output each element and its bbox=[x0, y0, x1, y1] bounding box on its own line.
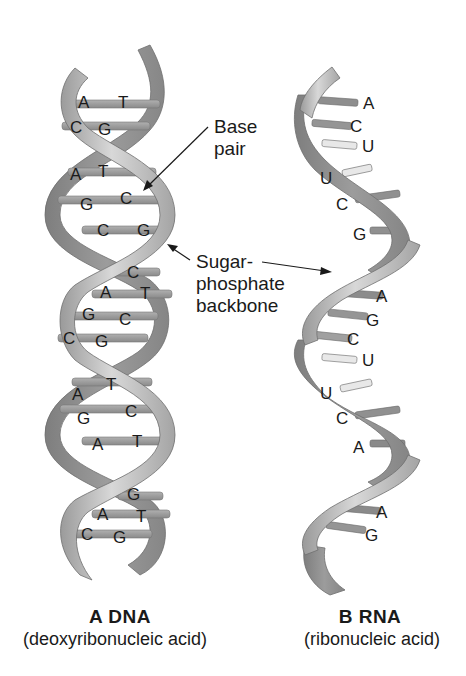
dna-base: A bbox=[92, 435, 104, 454]
dna-base: C bbox=[81, 525, 93, 544]
rna-base: U bbox=[362, 351, 374, 370]
dna-base: T bbox=[140, 284, 150, 303]
dna-base: C bbox=[127, 263, 139, 282]
dna-base: T bbox=[132, 432, 142, 451]
rna-base: G bbox=[366, 311, 379, 330]
dna-base: G bbox=[98, 120, 111, 139]
dna-base: G bbox=[95, 332, 108, 351]
rna-base: A bbox=[353, 438, 365, 457]
leader-line-right bbox=[262, 262, 325, 271]
dna-base: C bbox=[125, 402, 137, 421]
rna-base: C bbox=[336, 195, 348, 214]
leader-line bbox=[148, 127, 208, 186]
dna-base: G bbox=[127, 485, 140, 504]
rna-front-ribbon-low bbox=[302, 455, 420, 555]
dna-base: T bbox=[106, 375, 116, 394]
rna-base: U bbox=[362, 137, 374, 156]
rna-base: U bbox=[320, 169, 332, 188]
dna-base: A bbox=[72, 385, 84, 404]
nucleic-acid-diagram: A T C G A T G C C G C A T G C C G A T G … bbox=[0, 0, 466, 676]
callout-backbone: Sugar- phosphate backbone bbox=[167, 244, 332, 316]
dna-base: C bbox=[97, 221, 109, 240]
dna-base: G bbox=[80, 195, 93, 214]
dna-base: T bbox=[98, 162, 108, 181]
rna-caption-subtitle: (ribonucleic acid) bbox=[272, 629, 466, 650]
rna-caption-title: B RNA bbox=[290, 606, 450, 628]
arrowhead-right-icon bbox=[320, 267, 332, 275]
dna-base: C bbox=[120, 189, 132, 208]
dna-base: T bbox=[136, 507, 146, 526]
dna-base: A bbox=[100, 283, 112, 302]
callout-backbone-line3: backbone bbox=[196, 295, 278, 316]
rna-base: G bbox=[365, 526, 378, 545]
dna-base: C bbox=[119, 310, 131, 329]
rna-base: U bbox=[320, 384, 332, 403]
rna-base: A bbox=[363, 94, 375, 113]
callout-base-pair-line1: Base bbox=[214, 116, 257, 137]
dna-base: G bbox=[77, 409, 90, 428]
rna-base: C bbox=[347, 330, 359, 349]
callout-backbone-line1: Sugar- bbox=[196, 251, 253, 272]
rna-base: A bbox=[376, 503, 388, 522]
rna-base: C bbox=[336, 409, 348, 428]
callout-base-pair-line2: pair bbox=[214, 138, 246, 159]
dna-double-helix: A T C G A T G C C G C A T G C C G A T G … bbox=[45, 45, 175, 580]
dna-caption-title: A DNA bbox=[40, 606, 200, 628]
dna-base: C bbox=[63, 329, 75, 348]
rna-base: A bbox=[376, 287, 388, 306]
rna-base: G bbox=[353, 225, 366, 244]
callout-backbone-line2: phosphate bbox=[196, 273, 285, 294]
dna-base: A bbox=[78, 93, 90, 112]
rna-single-strand: A C U U C G A G C U U C A A G bbox=[294, 67, 420, 595]
rna-front-ribbon-top bbox=[300, 67, 340, 118]
dna-base: G bbox=[113, 528, 126, 547]
dna-base: T bbox=[118, 93, 128, 112]
dna-base: A bbox=[70, 165, 82, 184]
rna-base: C bbox=[350, 117, 362, 136]
dna-base: C bbox=[70, 118, 82, 137]
dna-base: G bbox=[82, 305, 95, 324]
dna-base: A bbox=[97, 505, 109, 524]
dna-base: G bbox=[137, 221, 150, 240]
dna-caption-subtitle: (deoxyribonucleic acid) bbox=[0, 629, 230, 650]
